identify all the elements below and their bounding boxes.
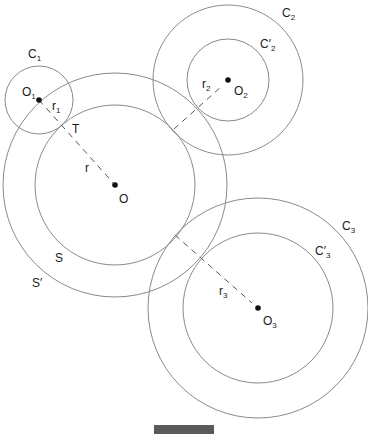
label-C2-prime: C′2 (260, 37, 276, 53)
radius-line-O1-O (39, 100, 115, 185)
label-r3: r3 (219, 284, 228, 300)
label-C3-prime: C′3 (315, 244, 331, 260)
label-C2: C2 (282, 6, 296, 22)
label-C3: C3 (342, 219, 356, 235)
label-O2: O2 (234, 84, 248, 100)
point-O2 (225, 77, 231, 83)
label-T: T (72, 122, 80, 136)
point-O3 (255, 305, 261, 311)
label-C1: C1 (28, 47, 42, 63)
label-r: r (85, 161, 89, 175)
label-r1: r1 (52, 99, 61, 115)
radius-line-r3 (175, 235, 252, 303)
label-r2: r2 (202, 77, 211, 93)
label-S-prime: S′ (32, 276, 43, 290)
label-S: S (55, 251, 63, 265)
label-O1: O1 (22, 85, 36, 101)
point-O (112, 182, 118, 188)
circle-diagram: C1 O1 r1 T r O C2 C′2 r2 O2 C3 C′3 r3 O3… (0, 0, 368, 434)
label-O: O (119, 192, 128, 206)
label-O3: O3 (263, 314, 277, 330)
figure-caption-bar (154, 425, 214, 434)
point-O1 (36, 97, 42, 103)
